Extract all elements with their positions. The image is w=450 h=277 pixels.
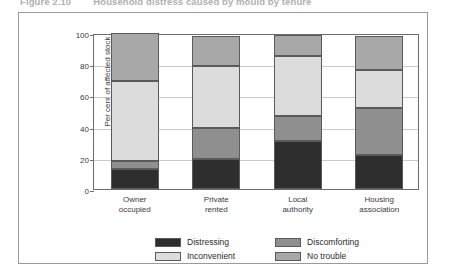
y-axis-tick-label: 0	[85, 187, 89, 196]
y-axis-tick-label: 60	[80, 93, 89, 102]
figure-caption-text: Household distress caused by mould by te…	[93, 0, 311, 7]
bar-segment[interactable]	[274, 141, 322, 189]
legend-label: Distressing	[187, 237, 229, 247]
bar-stack[interactable]	[274, 35, 322, 189]
bar-segment[interactable]	[111, 169, 159, 189]
bar-segment[interactable]	[111, 33, 159, 81]
bar-segment[interactable]	[192, 66, 240, 128]
x-axis-tick-label: Housingassociation	[334, 195, 424, 215]
bar-stack[interactable]	[192, 35, 240, 189]
legend-swatch	[275, 238, 301, 247]
legend-label: Inconvenient	[187, 251, 235, 261]
bar-segment[interactable]	[355, 108, 403, 155]
y-axis-tick-mark	[90, 191, 94, 192]
legend-label: No trouble	[307, 251, 346, 261]
x-axis-tick-label-line2: authority	[253, 205, 343, 215]
y-axis-tick-label: 40	[80, 124, 89, 133]
y-axis-tick-label: 20	[80, 155, 89, 164]
x-axis-tick-label-line1: Private	[171, 195, 261, 205]
bar-segment[interactable]	[274, 35, 322, 57]
bar-segment[interactable]	[355, 155, 403, 189]
legend-swatch	[155, 252, 181, 261]
x-axis-tick-label: Localauthority	[253, 195, 343, 215]
plot-area: Per cent of affected stock 100806040200O…	[93, 34, 419, 190]
x-axis-tick-label-line1: Housing	[334, 195, 424, 205]
x-axis-tick-label-line2: association	[334, 205, 424, 215]
x-axis-tick-label: Privaterented	[171, 195, 261, 215]
legend-item[interactable]: No trouble	[275, 251, 385, 261]
chart-legend: DistressingDiscomfortingInconvenientNo t…	[155, 237, 385, 261]
y-axis-tick-mark	[90, 66, 94, 67]
legend-swatch	[275, 252, 301, 261]
bar-segment[interactable]	[192, 128, 240, 159]
bar-stack[interactable]	[111, 35, 159, 189]
legend-swatch	[155, 238, 181, 247]
x-axis-tick-label-line2: occupied	[90, 205, 180, 215]
x-axis-tick-label-line1: Local	[253, 195, 343, 205]
figure-caption: Figure 2.10Household distress caused by …	[20, 0, 440, 8]
bar-segment[interactable]	[111, 81, 159, 161]
legend-item[interactable]: Discomforting	[275, 237, 385, 247]
y-axis-tick-mark	[90, 160, 94, 161]
bar-group[interactable]: Localauthority	[274, 35, 322, 189]
x-axis-tick-label-line2: rented	[171, 205, 261, 215]
bar-group[interactable]: Owneroccupied	[111, 35, 159, 189]
bar-stack[interactable]	[355, 35, 403, 189]
bar-segment[interactable]	[192, 159, 240, 189]
bar-group[interactable]: Housingassociation	[355, 35, 403, 189]
legend-label: Discomforting	[307, 237, 359, 247]
figure-frame: Per cent of affected stock 100806040200O…	[18, 12, 428, 264]
y-axis-tick-label: 100	[76, 31, 89, 40]
bar-segment[interactable]	[355, 36, 403, 70]
figure-caption-number: Figure 2.10	[20, 0, 71, 7]
y-axis-tick-mark	[90, 35, 94, 36]
bar-segment[interactable]	[274, 116, 322, 141]
legend-item[interactable]: Inconvenient	[155, 251, 261, 261]
bar-segment[interactable]	[111, 161, 159, 169]
bar-segment[interactable]	[274, 56, 322, 115]
y-axis-tick-mark	[90, 97, 94, 98]
x-axis-tick-label: Owneroccupied	[90, 195, 180, 215]
bar-segment[interactable]	[355, 70, 403, 107]
y-axis-tick-mark	[90, 129, 94, 130]
y-axis-tick-label: 80	[80, 62, 89, 71]
bar-segment[interactable]	[192, 36, 240, 66]
bar-group[interactable]: Privaterented	[192, 35, 240, 189]
x-axis-tick-label-line1: Owner	[90, 195, 180, 205]
legend-item[interactable]: Distressing	[155, 237, 261, 247]
